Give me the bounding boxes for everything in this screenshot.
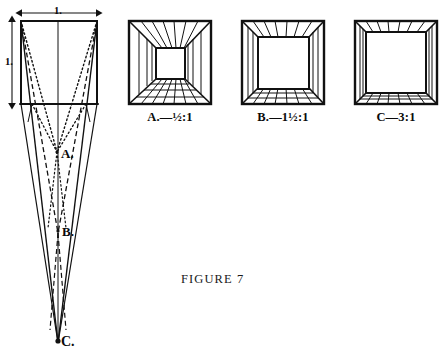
box-caption-C: C—3:1	[346, 111, 439, 124]
vanishing-point-label-B: B.	[62, 225, 74, 238]
box-caption-B: B.—1½:1	[233, 111, 333, 124]
width-dimension-label: 1.	[54, 6, 62, 17]
box-caption-A: A.—½:1	[120, 111, 220, 124]
box-diagram-C	[355, 21, 437, 104]
vanishing-point-A-dot	[55, 150, 58, 153]
left-construction-diagram	[12, 13, 99, 344]
convergence-lines-B	[21, 21, 97, 233]
box-diagram-A	[129, 21, 211, 104]
vanishing-point-B-dot	[56, 229, 59, 232]
vanishing-point-label-C: C.	[61, 335, 75, 349]
figure-7-illustration: 1. 1. A. B. C. A.—½:1 B.—1½:1 C—3:1 FIGU…	[0, 0, 439, 357]
lower-grid-marks	[28, 104, 90, 122]
height-dimension-label: 1.	[5, 57, 13, 68]
figure-caption: FIGURE 7	[181, 272, 244, 287]
vanishing-point-C-dot	[55, 338, 60, 343]
box-diagram-B	[242, 21, 324, 104]
vanishing-point-label-A: A.	[61, 147, 74, 160]
convergence-lines-C	[21, 21, 97, 343]
figure-artwork	[0, 0, 439, 357]
convergence-lines-C-lower	[21, 104, 97, 343]
